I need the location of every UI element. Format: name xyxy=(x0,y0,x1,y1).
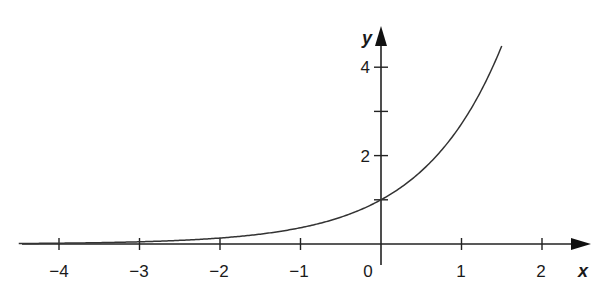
x-tick-label: −2 xyxy=(209,262,228,281)
x-tick-label: 1 xyxy=(456,262,465,281)
y-tick-label: 2 xyxy=(361,147,370,166)
y-axis-label: y xyxy=(361,28,373,48)
x-axis-label: x xyxy=(577,261,589,281)
x-tick-label: 0 xyxy=(363,262,372,281)
exponential-chart: −4 −3 −2 −1 0 1 2 2 4 x y xyxy=(0,0,607,296)
y-axis-arrow-icon xyxy=(375,26,387,46)
x-tick-label: −4 xyxy=(49,262,68,281)
exponential-curve xyxy=(19,46,502,244)
chart-canvas: −4 −3 −2 −1 0 1 2 2 4 x y xyxy=(0,0,607,296)
x-tick-label: 2 xyxy=(536,262,545,281)
x-tick-label: −1 xyxy=(289,262,308,281)
y-tick-label: 4 xyxy=(361,58,370,77)
x-tick-label: −3 xyxy=(129,262,148,281)
x-axis-arrow-icon xyxy=(571,238,591,250)
